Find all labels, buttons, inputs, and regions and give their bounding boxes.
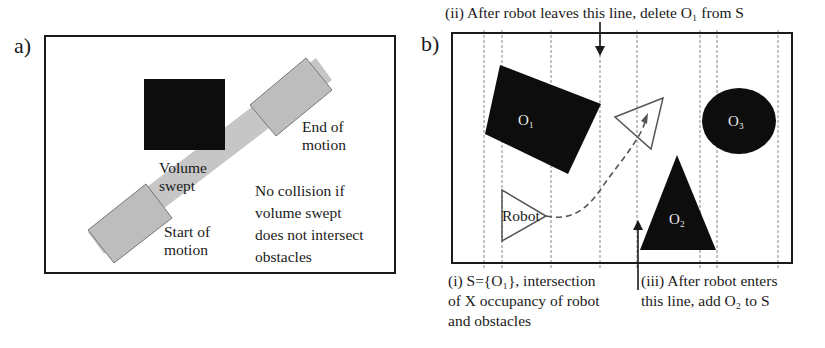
callout-iii: (iii) After robot enters this line, add … (641, 271, 777, 311)
start-of-motion-text: Start of motion (164, 223, 210, 259)
obstacle-o1-label: O₁ (518, 112, 534, 128)
panel-b-label: b) (421, 31, 439, 57)
path-arrowhead-icon (641, 113, 648, 124)
volume-swept-text: Volume swept (159, 159, 207, 195)
panel-b-diagram: O₁ O₃ O₂ Robot (452, 22, 792, 290)
end-of-motion-text: End of motion (302, 118, 346, 154)
robot-goal-outline (615, 98, 663, 149)
no-collision-note: No collision if volume swept does not in… (255, 180, 363, 268)
arrow-up-icon (633, 220, 643, 230)
arrow-down-icon (595, 46, 605, 56)
callout-i: (i) S={O₁}, intersection of X occupancy … (448, 271, 600, 331)
obstacle-square (144, 79, 225, 150)
obstacle-o3-label: O₃ (728, 113, 744, 129)
obstacle-o2-label: O₂ (669, 211, 685, 227)
robot-label: Robot (502, 207, 541, 224)
panel-a-label: a) (14, 33, 31, 59)
obstacle-o2 (640, 155, 716, 250)
callout-ii: (ii) After robot leaves this line, delet… (445, 3, 744, 23)
